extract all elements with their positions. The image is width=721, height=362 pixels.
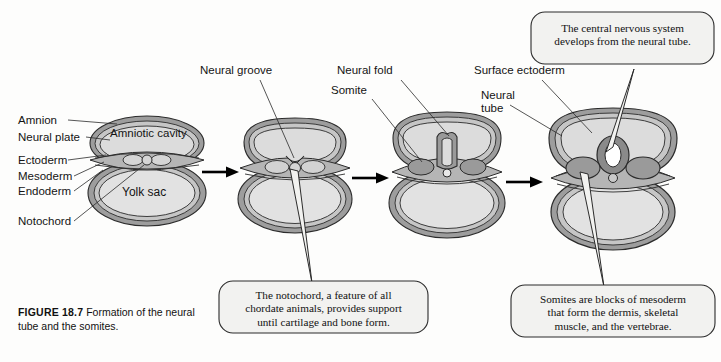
arrow-3-4 bbox=[506, 177, 543, 188]
notochord-callout-line1: The notochord, a feature of all bbox=[221, 289, 426, 302]
somite-callout-text: Somites are blocks of mesoderm that form… bbox=[513, 293, 713, 333]
cns-callout-line1: The central nervous system bbox=[533, 22, 712, 35]
label-amnion: Amnion bbox=[18, 114, 57, 127]
somite-callout-line3: muscle, and the vertebrae. bbox=[513, 320, 713, 333]
figure-container: Amnion Neural plate Ectoderm Mesoderm En… bbox=[0, 0, 721, 362]
notochord-callout-line2: chordate animals, provides support bbox=[221, 302, 426, 315]
notochord-callout-line3: until cartilage and bone form. bbox=[221, 316, 426, 329]
arrow-2-3 bbox=[352, 173, 389, 184]
figure-caption-label: FIGURE 18.7 bbox=[18, 306, 83, 318]
stage3-somite-right bbox=[460, 159, 486, 175]
label-neural-fold: Neural fold bbox=[337, 64, 393, 77]
label-endoderm: Endoderm bbox=[18, 185, 71, 198]
stage2-amniotic-cavity-fill bbox=[254, 128, 336, 162]
label-neural-groove: Neural groove bbox=[200, 64, 272, 77]
cns-callout-line2: develops from the neural tube. bbox=[533, 35, 712, 48]
notochord-callout-text: The notochord, a feature of all chordate… bbox=[221, 289, 426, 329]
leader-neural-tube bbox=[510, 105, 562, 136]
label-notochord: Notochord bbox=[18, 215, 71, 228]
label-neural-plate: Neural plate bbox=[18, 131, 80, 144]
label-somite: Somite bbox=[331, 84, 367, 97]
stage3-neural-groove-lumen bbox=[442, 138, 452, 166]
stage-4-neural-tube bbox=[549, 108, 677, 250]
stage3-notochord bbox=[443, 169, 451, 177]
label-amniotic-cavity: Amniotic cavity bbox=[110, 127, 187, 140]
stage1-notochord bbox=[142, 155, 152, 165]
label-ectoderm: Ectoderm bbox=[18, 154, 67, 167]
stage1-neural-plate-left bbox=[123, 155, 143, 166]
stage2-neural-fold-right bbox=[301, 161, 325, 174]
somite-callout-line2: that form the dermis, skeletal bbox=[513, 306, 713, 319]
label-neural-tube-line2: tube bbox=[481, 102, 503, 115]
figure-caption: FIGURE 18.7 Formation of the neural tube… bbox=[18, 306, 198, 333]
stage2-neural-fold-left bbox=[265, 161, 289, 174]
cns-callout-text: The central nervous system develops from… bbox=[533, 22, 712, 49]
stage1-neural-plate-right bbox=[151, 155, 171, 166]
label-yolk-sac: Yolk sac bbox=[122, 186, 166, 199]
somite-callout-line1: Somites are blocks of mesoderm bbox=[513, 293, 713, 306]
label-mesoderm: Mesoderm bbox=[18, 170, 72, 183]
stage4-notochord bbox=[609, 174, 618, 183]
stage-3-neural-fold bbox=[389, 112, 505, 238]
label-neural-tube-line1: Neural bbox=[481, 89, 515, 102]
stage3-somite-left bbox=[408, 159, 434, 175]
label-surface-ectoderm: Surface ectoderm bbox=[474, 64, 565, 77]
stage3-yolk-sac-fill bbox=[400, 178, 494, 229]
stage4-somite-right bbox=[626, 157, 660, 179]
arrow-1-2 bbox=[202, 167, 239, 178]
